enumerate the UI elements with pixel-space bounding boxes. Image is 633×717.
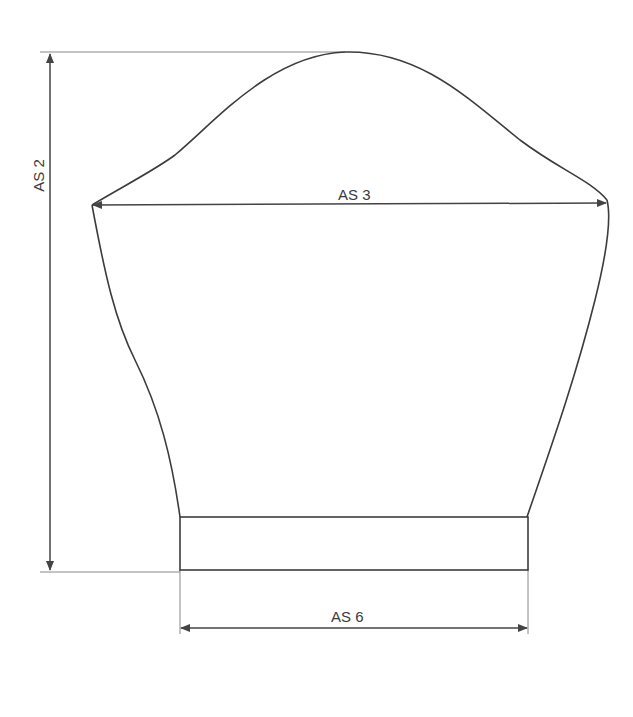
sleeve-left-side-outline <box>92 205 180 517</box>
cuff-band <box>180 517 528 570</box>
as6-label: AS 6 <box>331 609 364 624</box>
sleeve-right-side-outline <box>527 200 609 517</box>
as2-label: AS 2 <box>31 159 46 192</box>
as3-dimension-line <box>93 203 606 205</box>
sleeve-cap-outline <box>92 52 607 205</box>
sleeve-schematic <box>0 0 633 717</box>
as3-label: AS 3 <box>338 187 371 202</box>
